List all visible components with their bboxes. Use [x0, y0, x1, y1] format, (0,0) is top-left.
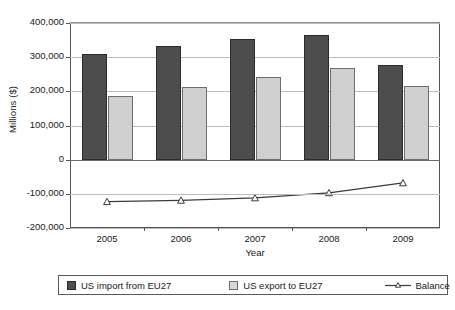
legend-swatch-export-icon — [229, 281, 238, 290]
gridline — [70, 23, 440, 24]
y-tickmark — [66, 160, 70, 161]
x-tick-label-2007: 2007 — [225, 233, 285, 244]
x-tickmark — [218, 227, 219, 231]
bar-export-2007 — [256, 77, 281, 160]
y-tickmark — [66, 57, 70, 58]
y-axis-tick-labels: 400,000300,000200,000100,0000-100,000-20… — [8, 0, 64, 310]
legend-item-export[interactable]: US export to EU27 — [229, 280, 322, 291]
x-tickmark — [366, 227, 367, 231]
chart-container: Millions ($) 400,000300,000200,000100,00… — [0, 0, 455, 310]
y-tick-label: 300,000 — [8, 51, 64, 61]
gridline — [70, 160, 440, 161]
y-tick-label: 400,000 — [8, 17, 64, 27]
gridline — [70, 57, 440, 58]
bar-import-2006 — [156, 46, 181, 160]
legend-item-import[interactable]: US import from EU27 — [67, 280, 171, 291]
legend-line-marker-icon — [385, 281, 411, 290]
y-tickmark — [66, 126, 70, 127]
y-tick-label: -100,000 — [8, 188, 64, 198]
bar-export-2009 — [404, 86, 429, 159]
legend-swatch-import-icon — [67, 281, 76, 290]
x-axis-title: Year — [70, 247, 440, 258]
legend-item-balance[interactable]: Balance — [385, 280, 450, 291]
bar-import-2009 — [378, 65, 403, 160]
y-tick-label: 100,000 — [8, 120, 64, 130]
y-tick-label: 0 — [8, 154, 64, 164]
y-tick-label: 200,000 — [8, 85, 64, 95]
y-tickmark — [66, 91, 70, 92]
legend-label-import: US import from EU27 — [81, 280, 171, 291]
gridline — [70, 228, 440, 229]
y-tick-label: -200,000 — [8, 222, 64, 232]
y-tickmark — [66, 194, 70, 195]
x-tick-label-2005: 2005 — [77, 233, 137, 244]
gridline — [70, 194, 440, 195]
x-tick-label-2008: 2008 — [299, 233, 359, 244]
y-tickmark — [66, 228, 70, 229]
legend-label-export: US export to EU27 — [243, 280, 322, 291]
bar-import-2008 — [304, 35, 329, 160]
legend-label-balance: Balance — [416, 280, 450, 291]
bar-export-2006 — [182, 87, 207, 159]
x-tick-label-2009: 2009 — [373, 233, 433, 244]
bar-import-2007 — [230, 39, 255, 160]
x-axis-line — [70, 227, 440, 228]
y-tickmark — [66, 23, 70, 24]
x-tickmark — [292, 227, 293, 231]
x-tick-label-2006: 2006 — [151, 233, 211, 244]
bar-export-2005 — [108, 96, 133, 159]
bar-import-2005 — [82, 54, 107, 159]
plot-area — [70, 22, 440, 227]
x-tickmark — [144, 227, 145, 231]
bar-export-2008 — [330, 68, 355, 160]
chart-legend: US import from EU27 US export to EU27 Ba… — [58, 275, 448, 295]
